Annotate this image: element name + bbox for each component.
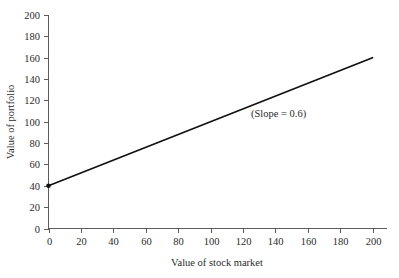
y-tick-label: 140 <box>24 74 40 85</box>
x-tick-label: 200 <box>366 236 382 247</box>
x-tick-label: 80 <box>173 236 184 247</box>
x-tick-label: 0 <box>47 236 52 247</box>
x-tick-label: 180 <box>333 236 349 247</box>
y-tick-label: 160 <box>24 53 40 64</box>
x-tick-label: 40 <box>108 236 119 247</box>
x-tick-label: 160 <box>301 236 317 247</box>
x-tick-label: 100 <box>204 236 220 247</box>
slope-annotation: (Slope = 0.6) <box>251 108 307 120</box>
x-tick-label: 120 <box>236 236 252 247</box>
y-tick-label: 180 <box>24 31 40 42</box>
y-tick-label: 120 <box>24 95 40 106</box>
chart-figure: 020406080100120140160180200 020406080100… <box>0 0 399 278</box>
y-tick-label: 100 <box>24 117 40 128</box>
x-axis-title: Value of stock market <box>171 257 263 268</box>
y-tick-label: 40 <box>30 181 41 192</box>
x-tick-label: 20 <box>76 236 87 247</box>
y-axis-title: Value of portfolio <box>5 85 16 160</box>
x-tick-label: 60 <box>141 236 152 247</box>
data-point-marker <box>46 184 51 189</box>
y-tick-label: 0 <box>35 224 40 235</box>
y-tick-label: 20 <box>30 202 41 213</box>
x-tick-label: 140 <box>268 236 284 247</box>
y-tick-label: 60 <box>30 159 41 170</box>
y-tick-label: 80 <box>30 138 41 149</box>
line-chart: 020406080100120140160180200 020406080100… <box>0 0 399 278</box>
annotation-group: (Slope = 0.6) <box>251 108 307 120</box>
y-tick-label: 200 <box>24 10 40 21</box>
